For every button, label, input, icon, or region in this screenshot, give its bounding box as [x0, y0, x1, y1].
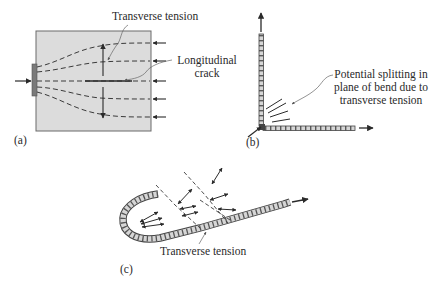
panel-c [123, 168, 308, 244]
split-marks [266, 99, 290, 122]
leader-transverse-tension-c [199, 232, 206, 244]
compression-arrows [153, 43, 166, 117]
label-splitting-line1: Potential splitting in [328, 68, 434, 81]
label-crack: crack [172, 67, 242, 80]
diagram-canvas [0, 0, 434, 283]
leader-splitting [292, 75, 333, 104]
panel-label-b: (b) [246, 136, 259, 149]
panel-label-a: (a) [14, 134, 27, 147]
horizontal-rebar [263, 126, 355, 131]
hook-tension-arrows [140, 212, 164, 227]
hooked-rebar [123, 194, 290, 239]
panel-label-c: (c) [120, 263, 133, 276]
label-splitting-line2: plane of bend due to [328, 81, 434, 94]
label-transverse-tension-a: Transverse tension [112, 10, 198, 23]
transverse-tension-field [178, 168, 236, 216]
label-splitting-line3: transverse tension [328, 94, 434, 107]
hooked-rebar-ribs [123, 194, 290, 239]
label-transverse-tension-c: Transverse tension [160, 245, 246, 258]
bearing-plate [32, 64, 37, 96]
figure: Transverse tension Longitudinal crack (a… [0, 0, 434, 283]
vertical-rebar [259, 34, 264, 126]
label-longitudinal: Longitudinal [172, 54, 242, 67]
panel-a [15, 25, 172, 131]
pull-arrow [292, 199, 308, 202]
hooked-rebar-outline [123, 194, 290, 239]
